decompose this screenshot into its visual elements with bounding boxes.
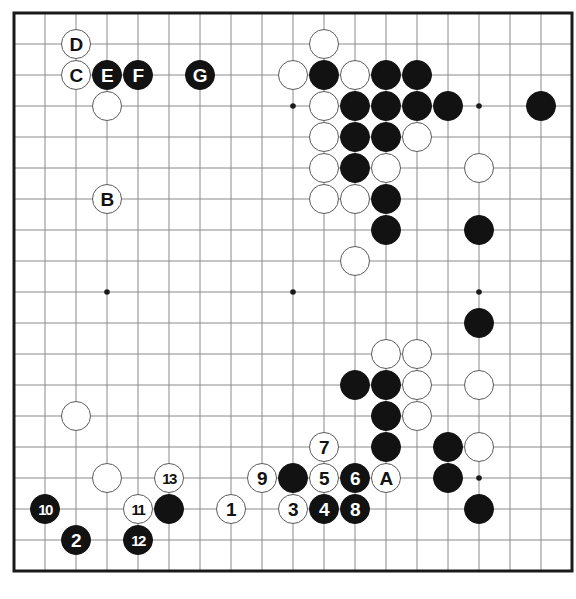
stone-black [402, 91, 432, 121]
stone-label: B [100, 190, 113, 209]
stone-white-labeled-3: 3 [278, 494, 308, 524]
stone-label: 11 [132, 502, 145, 517]
stone-white [402, 122, 432, 152]
stone-black-labeled-G: G [185, 60, 215, 90]
stone-white-labeled-D: D [61, 29, 91, 59]
stone-label: 13 [162, 471, 176, 486]
stone-label: 12 [131, 533, 145, 548]
stone-white-labeled-5: 5 [309, 463, 339, 493]
stone-black-labeled-12: 12 [123, 525, 153, 555]
stone-label: F [132, 66, 143, 85]
stone-black-labeled-4: 4 [309, 494, 339, 524]
stone-label: 8 [350, 500, 360, 519]
stone-label: G [193, 66, 207, 85]
stone-white [371, 339, 401, 369]
stone-black [371, 401, 401, 431]
stone-white-labeled-1: 1 [216, 494, 246, 524]
stone-black-labeled-8: 8 [340, 494, 370, 524]
stone-label: 4 [319, 500, 329, 519]
stone-white-labeled-11: 11 [123, 494, 153, 524]
stone-white [371, 153, 401, 183]
stone-white-labeled-C: C [61, 60, 91, 90]
stone-label: 7 [319, 438, 329, 457]
stone-label: 1 [226, 500, 236, 519]
stone-label: 10 [38, 502, 52, 517]
stone-label: E [101, 66, 113, 85]
stone-black [371, 60, 401, 90]
stone-black [371, 215, 401, 245]
stone-white-labeled-13: 13 [154, 463, 184, 493]
stone-black-labeled-6: 6 [340, 463, 370, 493]
stone-white [340, 60, 370, 90]
stone-white [309, 122, 339, 152]
stone-black [464, 494, 494, 524]
stone-label: C [69, 66, 82, 85]
stone-label: 2 [71, 531, 81, 550]
stone-black [340, 153, 370, 183]
stone-white [278, 60, 308, 90]
stone-label: 6 [350, 469, 360, 488]
stone-black [371, 184, 401, 214]
stone-black [433, 463, 463, 493]
stone-white-labeled-7: 7 [309, 432, 339, 462]
stone-black [278, 463, 308, 493]
stone-black [371, 370, 401, 400]
stone-black [154, 494, 184, 524]
stone-white [309, 184, 339, 214]
stone-black [464, 215, 494, 245]
stone-white [402, 339, 432, 369]
stone-black [402, 60, 432, 90]
stone-white [61, 401, 91, 431]
stone-black [464, 308, 494, 338]
stone-label: 5 [319, 469, 329, 488]
stone-black-labeled-F: F [123, 60, 153, 90]
stone-label: D [69, 35, 82, 54]
stone-white [309, 29, 339, 59]
stone-black [340, 370, 370, 400]
stone-black [309, 60, 339, 90]
stone-white [464, 370, 494, 400]
stone-white [340, 184, 370, 214]
stone-black-labeled-E: E [92, 60, 122, 90]
stone-white-labeled-9: 9 [247, 463, 277, 493]
stone-white [464, 153, 494, 183]
stone-black [340, 122, 370, 152]
stone-black [371, 122, 401, 152]
stone-white [92, 91, 122, 121]
stone-black [371, 432, 401, 462]
stone-white-labeled-A: A [371, 463, 401, 493]
stone-white-labeled-B: B [92, 184, 122, 214]
stone-white [340, 246, 370, 276]
stone-black [526, 91, 556, 121]
stone-label: A [379, 469, 392, 488]
stone-white [464, 432, 494, 462]
stone-black [433, 432, 463, 462]
stone-black-labeled-10: 10 [30, 494, 60, 524]
stone-black [371, 91, 401, 121]
stone-white [92, 463, 122, 493]
stone-black [433, 91, 463, 121]
stone-label: 3 [288, 500, 298, 519]
stone-black-labeled-2: 2 [61, 525, 91, 555]
stone-white [402, 401, 432, 431]
go-board-diagram: DCEFGB713956A10111348212 [0, 0, 576, 599]
stone-white [309, 91, 339, 121]
stone-black [340, 91, 370, 121]
stone-label: 9 [257, 469, 267, 488]
stone-white [402, 370, 432, 400]
stone-white [309, 153, 339, 183]
